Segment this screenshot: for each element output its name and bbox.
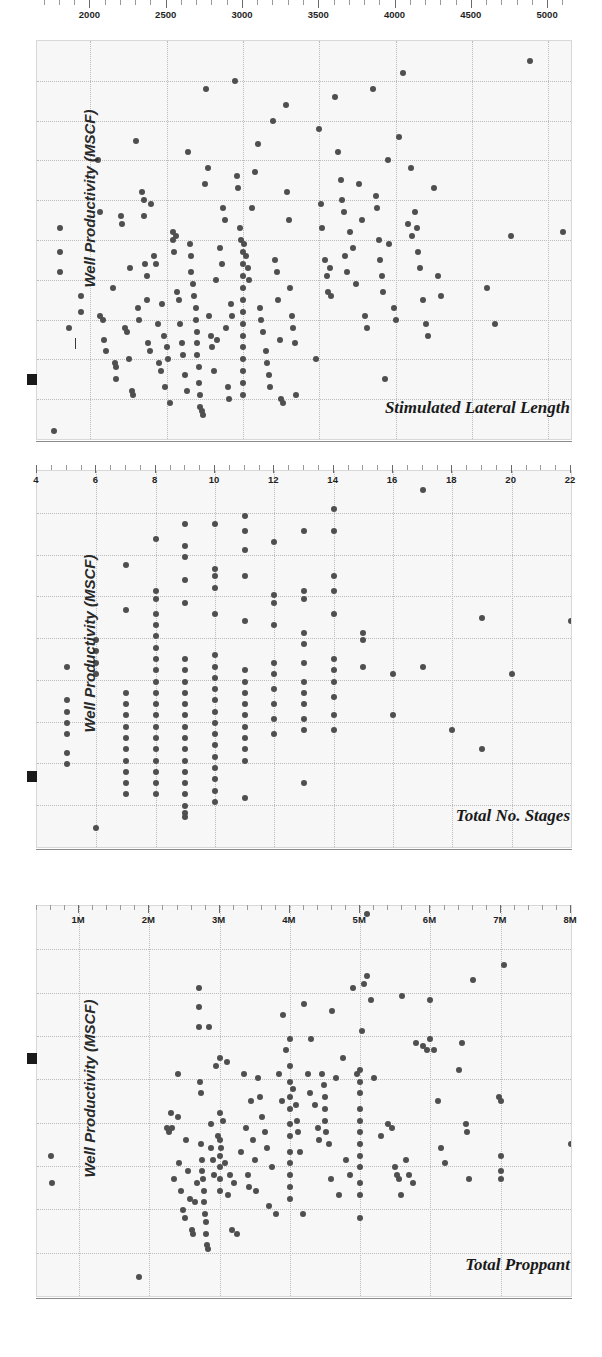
data-point xyxy=(290,325,296,331)
horizontal-gridline xyxy=(37,1123,571,1124)
data-point xyxy=(301,727,307,733)
data-point xyxy=(103,348,109,354)
x-axis-tick-label: 6 xyxy=(93,474,98,485)
data-point xyxy=(275,297,281,303)
y-axis-label-3: Well Productivity (MSCF) xyxy=(0,1080,30,1097)
data-point xyxy=(242,724,248,730)
vertical-gridline xyxy=(512,471,513,847)
data-point xyxy=(100,317,106,323)
data-point xyxy=(340,1055,346,1061)
data-point xyxy=(124,329,130,335)
data-point xyxy=(133,138,139,144)
data-point xyxy=(308,1036,314,1042)
data-point xyxy=(377,257,383,263)
data-point xyxy=(301,780,307,786)
data-point xyxy=(222,217,228,223)
data-point xyxy=(203,1231,209,1237)
data-point xyxy=(240,333,246,339)
data-point xyxy=(206,313,212,319)
data-point xyxy=(267,384,273,390)
data-point xyxy=(158,368,164,374)
vertical-gridline xyxy=(452,471,453,847)
data-point xyxy=(164,344,170,350)
data-point xyxy=(153,758,159,764)
data-point xyxy=(144,273,150,279)
x-axis-tick-label: 4 xyxy=(33,474,38,485)
data-point xyxy=(250,1137,256,1143)
data-point xyxy=(389,1125,395,1131)
data-point xyxy=(253,1188,259,1194)
data-point xyxy=(218,1145,224,1151)
x-axis-major-tick xyxy=(273,465,274,473)
data-point xyxy=(219,261,225,267)
data-point xyxy=(212,611,218,617)
data-point xyxy=(398,1192,404,1198)
data-point xyxy=(279,1098,285,1104)
data-point xyxy=(206,1024,212,1030)
data-point xyxy=(316,126,322,132)
horizontal-gridline xyxy=(37,763,571,764)
data-point xyxy=(198,1090,204,1096)
data-point xyxy=(212,521,218,527)
data-point xyxy=(277,337,283,343)
data-point xyxy=(193,317,199,323)
data-point xyxy=(127,265,133,271)
data-point xyxy=(484,285,490,291)
x-axis-tick-label: 10 xyxy=(209,474,220,485)
data-point xyxy=(240,309,246,315)
data-point xyxy=(301,630,307,636)
data-point xyxy=(293,1102,299,1108)
data-point xyxy=(459,1040,465,1046)
data-point xyxy=(370,86,376,92)
data-point xyxy=(182,712,188,718)
data-point xyxy=(225,384,231,390)
vertical-gridline xyxy=(430,906,431,1296)
data-point xyxy=(182,372,188,378)
vertical-gridline xyxy=(548,41,549,439)
x-axis-minor-tick xyxy=(377,465,378,470)
data-point xyxy=(139,189,145,195)
data-point xyxy=(568,1141,572,1147)
data-point xyxy=(266,1203,272,1209)
data-point xyxy=(322,1094,328,1100)
data-point xyxy=(301,528,307,534)
data-point xyxy=(245,265,251,271)
x-axis-tick-label: 14 xyxy=(327,474,338,485)
data-point xyxy=(396,134,402,140)
x-axis-minor-tick xyxy=(259,465,260,470)
x-axis-minor-tick xyxy=(162,905,163,910)
data-point xyxy=(212,652,218,658)
data-point xyxy=(501,962,507,968)
data-point xyxy=(57,225,63,231)
x-axis-minor-tick xyxy=(472,905,473,910)
chart-panel-1: Well Productivity (MSCF) Stimulated Late… xyxy=(0,0,602,465)
data-point xyxy=(364,325,370,331)
x-axis-minor-tick xyxy=(348,465,349,470)
data-point xyxy=(212,585,218,591)
data-point xyxy=(153,769,159,775)
x-axis-tick-label: 3500 xyxy=(308,9,329,20)
x-axis-tick-label: 5M xyxy=(353,914,366,925)
x-axis-minor-tick xyxy=(501,0,502,5)
x-axis-minor-tick xyxy=(410,0,411,5)
data-point xyxy=(328,293,334,299)
data-point xyxy=(255,141,261,147)
data-point xyxy=(234,1231,240,1237)
x-axis-minor-tick xyxy=(275,905,276,910)
data-point xyxy=(249,205,255,211)
data-point xyxy=(212,675,218,681)
data-point xyxy=(148,201,154,207)
data-point xyxy=(93,825,99,831)
data-point xyxy=(271,592,277,598)
data-point xyxy=(223,325,229,331)
data-point xyxy=(64,664,70,670)
data-point xyxy=(123,769,129,775)
x-axis-minor-tick xyxy=(486,905,487,910)
data-point xyxy=(113,376,119,382)
data-point xyxy=(273,1211,279,1217)
x-axis-minor-tick xyxy=(379,0,380,5)
data-point xyxy=(210,1157,216,1163)
y-axis-label-1: Well Productivity (MSCF) xyxy=(0,190,30,207)
data-point xyxy=(153,690,159,696)
data-point xyxy=(242,528,248,534)
